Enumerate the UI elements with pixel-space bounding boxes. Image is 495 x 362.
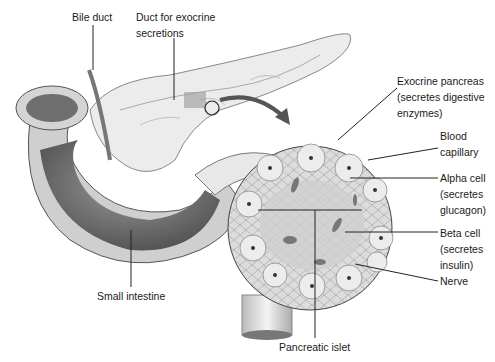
label-small-intestine: Small intestine [97, 288, 165, 304]
label-nerve: Nerve [440, 273, 468, 289]
label-alpha-cell: Alpha cell (secretes glucagon) [440, 170, 486, 218]
label-bile-duct: Bile duct [72, 9, 112, 25]
pancreas-illustration [0, 0, 495, 362]
label-duct-exocrine-secretions: Duct for exocrine secretions [136, 9, 215, 41]
label-beta-cell: Beta cell (secretes insulin) [440, 225, 483, 273]
label-exocrine-pancreas: Exocrine pancreas (secretes digestive en… [397, 73, 485, 121]
label-blood-capillary: Blood capillary [440, 128, 479, 160]
label-pancreatic-islet: Pancreatic islet [279, 339, 350, 355]
islet-magnified-view [228, 144, 393, 310]
